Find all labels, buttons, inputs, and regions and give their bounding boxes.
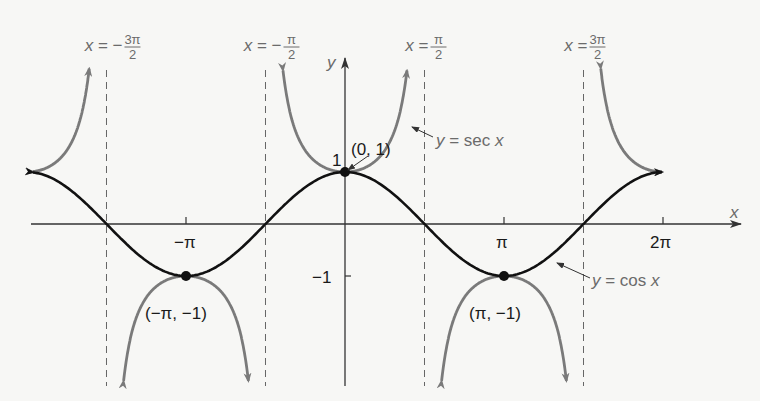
point-label-pi: (π, −1) [469, 304, 521, 323]
pointer-sec [412, 127, 433, 137]
point-label-0-1: (0, 1) [351, 140, 391, 159]
asymptote-label-num: 3π [124, 32, 140, 47]
asymptote-label-num: π [434, 32, 443, 47]
tick-label-pi: π [496, 233, 508, 252]
asymptote-label-den: 2 [129, 47, 136, 62]
asymptote-label: x = [404, 36, 428, 55]
pointer-cos [557, 263, 590, 278]
asymptote-label-num: 3π [589, 32, 605, 47]
cos-eq: = cos [601, 271, 652, 290]
asymptote-label-den: 2 [435, 47, 442, 62]
sec-branch [124, 276, 249, 381]
sec-eq: = sec [445, 131, 496, 150]
tick-label-neg-pi: −π [174, 233, 196, 252]
sec-curve [33, 69, 662, 381]
asymptote-label: x = − [243, 36, 282, 55]
asymptote-label: x = [563, 36, 587, 55]
y-axis-label: y [326, 53, 337, 72]
point-label-negpi: (−π, −1) [145, 304, 207, 323]
asymptote-label-den: 2 [288, 47, 295, 62]
tick-label-yneg1: −1 [312, 268, 331, 287]
sec-branch [601, 69, 662, 172]
point-pi-neg1 [499, 271, 509, 281]
point-negpi-neg1 [181, 271, 191, 281]
asymptote-label-num: π [287, 32, 296, 47]
asymptote-label: x = − [84, 36, 123, 55]
sec-x: x [494, 131, 504, 150]
secant-cosine-chart: x = −3π2x = −π2x = π2x = 3π2 y x −π π 2π… [0, 0, 760, 401]
cos-x: x [650, 271, 660, 290]
point-0-1 [340, 167, 350, 177]
sec-branch [33, 69, 89, 172]
tick-label-y1: 1 [332, 151, 341, 170]
asymptote-label-den: 2 [594, 47, 601, 62]
x-axis-label: x [729, 203, 739, 222]
asymptote-labels: x = −3π2x = −π2x = π2x = 3π2 [84, 32, 606, 62]
sec-branch [442, 276, 567, 381]
sec-curve-label: y = sec x [435, 131, 504, 150]
cos-curve-label: y = cos x [591, 271, 660, 290]
tick-label-2pi: 2π [650, 233, 671, 252]
